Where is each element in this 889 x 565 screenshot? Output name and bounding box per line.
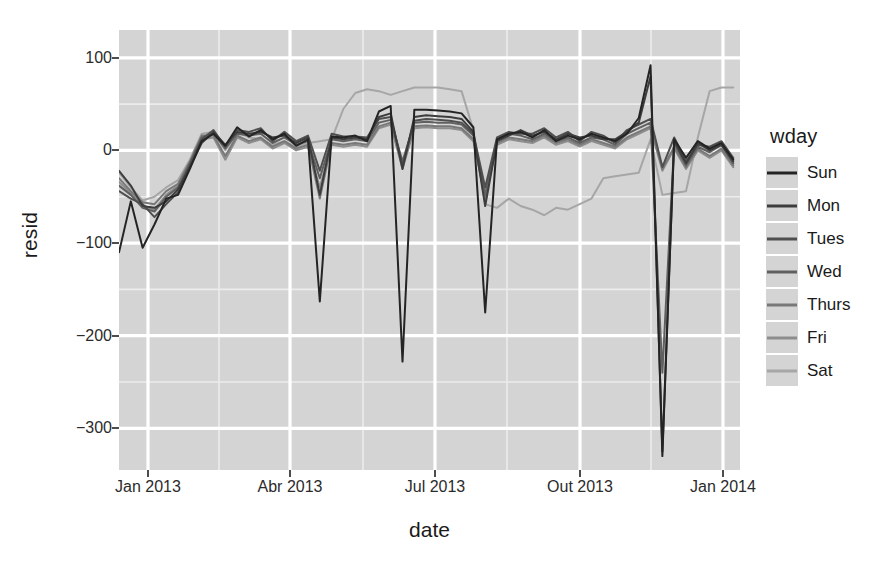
x-tick-label: Jan 2013 (115, 478, 181, 496)
y-tick-mark (112, 242, 119, 244)
x-axis-title: date (119, 518, 740, 542)
legend-item-mon[interactable]: Mon (766, 189, 886, 222)
legend-key-swatch (766, 190, 798, 221)
minor-gridlines (119, 30, 740, 470)
legend-line-icon (767, 369, 797, 372)
y-axis-tick-labels: 1000−100−200−300 (38, 0, 112, 500)
y-tick-mark (112, 335, 119, 337)
legend-item-fri[interactable]: Fri (766, 321, 886, 354)
legend-key-swatch (766, 355, 798, 386)
legend-item-tues[interactable]: Tues (766, 222, 886, 255)
legend-label: Sun (807, 163, 837, 183)
y-tick-label: −300 (48, 419, 112, 437)
y-tick-label: 100 (48, 49, 112, 67)
legend-items: SunMonTuesWedThursFriSat (766, 156, 886, 387)
legend-title: wday (770, 125, 886, 148)
x-tick-mark (147, 470, 149, 477)
plot-canvas (119, 30, 740, 470)
legend-item-wed[interactable]: Wed (766, 255, 886, 288)
legend-label: Thurs (807, 295, 850, 315)
legend-label: Fri (807, 328, 827, 348)
x-tick-mark (289, 470, 291, 477)
plot-panel (119, 30, 740, 470)
legend-label: Wed (807, 262, 842, 282)
x-tick-label: Out 2013 (547, 478, 613, 496)
legend-item-thurs[interactable]: Thurs (766, 288, 886, 321)
x-axis-title-text: date (409, 518, 450, 541)
data-series-lines (119, 65, 733, 456)
x-tick-label: Jan 2014 (690, 478, 756, 496)
legend-label: Sat (807, 361, 833, 381)
x-tick-label: Jul 2013 (405, 478, 466, 496)
legend-line-icon (767, 237, 797, 240)
legend-label: Tues (807, 229, 844, 249)
y-tick-label: −200 (48, 327, 112, 345)
x-tick-mark (722, 470, 724, 477)
x-tick-mark (434, 470, 436, 477)
major-gridlines (119, 30, 740, 470)
legend-item-sat[interactable]: Sat (766, 354, 886, 387)
legend-key-swatch (766, 322, 798, 353)
legend-key-swatch (766, 157, 798, 188)
y-tick-mark (112, 149, 119, 151)
legend-line-icon (767, 303, 797, 306)
legend-label: Mon (807, 196, 840, 216)
y-tick-mark (112, 427, 119, 429)
legend-line-icon (767, 171, 797, 174)
x-tick-mark (579, 470, 581, 477)
legend-key-swatch (766, 223, 798, 254)
legend-key-swatch (766, 289, 798, 320)
legend-key-swatch (766, 256, 798, 287)
legend: wday SunMonTuesWedThursFriSat (766, 125, 886, 387)
chart-figure: resid 1000−100−200−300 Jan 2013Abr 2013J… (0, 0, 889, 565)
legend-line-icon (767, 270, 797, 273)
legend-item-sun[interactable]: Sun (766, 156, 886, 189)
x-tick-label: Abr 2013 (258, 478, 323, 496)
y-tick-label: 0 (48, 141, 112, 159)
y-tick-mark (112, 57, 119, 59)
legend-line-icon (767, 204, 797, 207)
legend-line-icon (767, 336, 797, 339)
y-tick-label: −100 (48, 234, 112, 252)
